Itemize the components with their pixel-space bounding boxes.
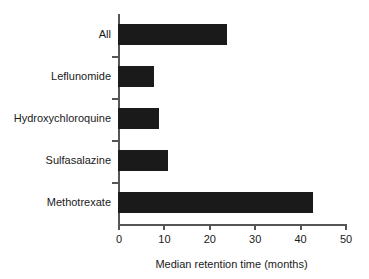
y-axis-tick bbox=[112, 140, 118, 142]
x-axis-tick-label: 30 bbox=[249, 233, 261, 245]
bar-chart-figure: AllLeflunomideHydroxychloroquineSulfasal… bbox=[0, 0, 369, 279]
x-axis-spine bbox=[118, 224, 345, 226]
bar bbox=[118, 192, 313, 213]
x-axis-tick-label: 50 bbox=[340, 233, 352, 245]
x-axis-tick-label: 20 bbox=[204, 233, 216, 245]
category-label: Sulfasalazine bbox=[46, 150, 111, 171]
bar-row: Sulfasalazine bbox=[118, 140, 345, 182]
plot-area: AllLeflunomideHydroxychloroquineSulfasal… bbox=[118, 14, 345, 224]
category-label: All bbox=[99, 24, 111, 45]
bar bbox=[118, 66, 154, 87]
bar bbox=[118, 24, 227, 45]
y-axis-tick bbox=[112, 98, 118, 100]
x-axis-tick bbox=[300, 224, 302, 230]
bar-row: Methotrexate bbox=[118, 182, 345, 224]
bar-row: All bbox=[118, 14, 345, 56]
x-axis-tick bbox=[345, 224, 347, 230]
bar-row: Leflunomide bbox=[118, 56, 345, 98]
bar bbox=[118, 108, 159, 129]
bar-row: Hydroxychloroquine bbox=[118, 98, 345, 140]
x-axis-tick-label: 10 bbox=[158, 233, 170, 245]
x-axis-label: Median retention time (months) bbox=[118, 258, 345, 270]
x-axis-tick-label: 0 bbox=[116, 233, 122, 245]
bar bbox=[118, 150, 168, 171]
category-label: Hydroxychloroquine bbox=[14, 108, 111, 129]
y-axis-tick bbox=[112, 56, 118, 58]
category-label: Methotrexate bbox=[47, 192, 111, 213]
x-axis-tick-label: 40 bbox=[294, 233, 306, 245]
x-axis-tick bbox=[254, 224, 256, 230]
category-label: Leflunomide bbox=[51, 66, 111, 87]
x-axis-tick bbox=[209, 224, 211, 230]
x-axis-tick bbox=[163, 224, 165, 230]
x-axis-tick bbox=[118, 224, 120, 230]
y-axis-tick bbox=[112, 182, 118, 184]
